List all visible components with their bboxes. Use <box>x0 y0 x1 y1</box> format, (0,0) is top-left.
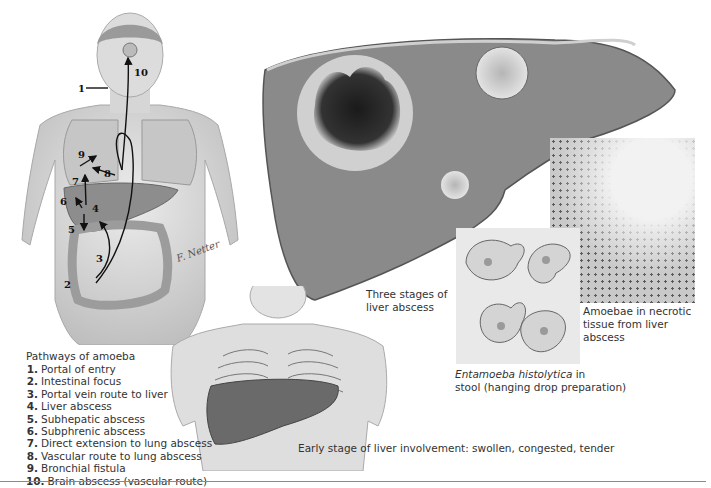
legend-item: 2.Intestinal focus <box>26 375 212 387</box>
legend-item-label: Direct extension to lung abscess <box>41 437 212 449</box>
legend-item-label: Portal of entry <box>41 363 116 375</box>
legend-item: 5.Subhepatic abscess <box>26 413 212 425</box>
caption-liver-stages: Three stages of liver abscess <box>366 288 448 314</box>
svg-text:10: 10 <box>134 67 148 78</box>
legend-item: 7.Direct extension to lung abscess <box>26 437 212 449</box>
legend-item-number: 7. <box>26 437 38 449</box>
legend-item-number: 6. <box>26 425 38 437</box>
legend-item-label: Vascular route to lung abscess <box>41 450 202 462</box>
legend-item: 6.Subphrenic abscess <box>26 425 212 437</box>
svg-text:8: 8 <box>104 168 111 179</box>
legend-item-number: 1. <box>26 363 38 375</box>
legend-item-label: Liver abscess <box>41 400 112 412</box>
svg-text:9: 9 <box>78 149 85 160</box>
legend-item: 9.Bronchial fistula <box>26 462 212 474</box>
svg-text:5: 5 <box>68 224 75 235</box>
svg-text:1: 1 <box>78 83 85 94</box>
legend-item: 4.Liver abscess <box>26 400 212 412</box>
legend-item-label: Subphrenic abscess <box>41 425 145 437</box>
legend-list: 1.Portal of entry2.Intestinal focus3.Por… <box>26 363 212 487</box>
legend-item-number: 2. <box>26 375 38 387</box>
hanging-drop-inset <box>456 228 580 364</box>
legend-item-number: 9. <box>26 462 38 474</box>
svg-text:3: 3 <box>96 253 103 264</box>
legend-item-number: 8. <box>26 450 38 462</box>
legend-item-label: Bronchial fistula <box>41 462 126 474</box>
caption-necrotic-tissue: Amoebae in necrotic tissue from liver ab… <box>583 305 711 344</box>
lung-right <box>142 120 197 185</box>
legend-title: Pathways of amoeba <box>26 350 212 363</box>
legend-item-label: Subhepatic abscess <box>41 413 145 425</box>
legend-item: 8.Vascular route to lung abscess <box>26 450 212 462</box>
bottom-rule <box>0 481 706 482</box>
legend-item-number: 4. <box>26 400 38 412</box>
legend-item: 3.Portal vein route to liver <box>26 388 212 400</box>
svg-text:7: 7 <box>72 176 79 187</box>
caption-hanging-drop: Entamoeba histolytica in stool (hanging … <box>455 368 626 394</box>
legend-item-number: 3. <box>26 388 38 400</box>
legend-item: 1.Portal of entry <box>26 363 212 375</box>
legend-item-number: 5. <box>26 413 38 425</box>
legend-item-label: Portal vein route to liver <box>41 388 168 400</box>
svg-text:4: 4 <box>92 203 99 214</box>
pathways-legend: Pathways of amoeba 1.Portal of entry2.In… <box>26 350 212 487</box>
abscess-medium <box>476 47 528 99</box>
svg-text:6: 6 <box>60 196 67 207</box>
abscess-small <box>441 171 469 199</box>
svg-text:2: 2 <box>64 279 71 290</box>
caption-early-stage: Early stage of liver involvement: swolle… <box>298 442 614 455</box>
trophozoites <box>466 240 570 352</box>
legend-item-label: Intestinal focus <box>41 375 121 387</box>
